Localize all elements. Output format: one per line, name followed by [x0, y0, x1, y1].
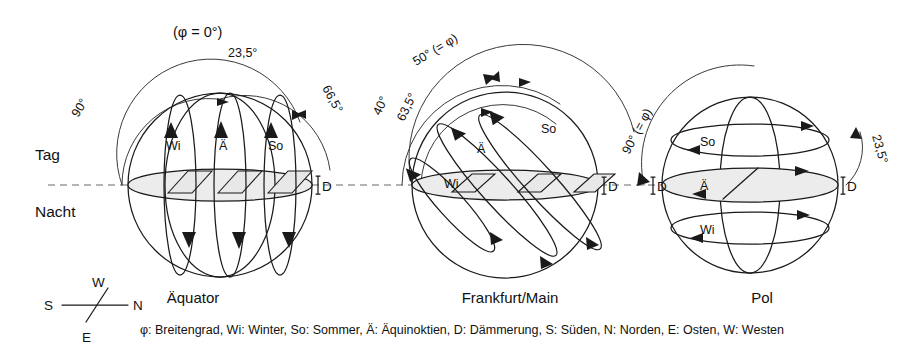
panel-frankfurt: Wi Ä So D 40° 63,5° 50° (= φ)	[370, 31, 634, 306]
path-label-wi-pole: Wi	[700, 223, 715, 237]
angle-label-40-frankfurt: 40°	[370, 94, 391, 117]
path-label-so-pole: So	[700, 135, 715, 149]
outer-arc-90-pole	[641, 65, 754, 185]
path-label-so-frankfurt: So	[541, 122, 556, 136]
path-label-wi-equator: Wi	[166, 139, 181, 153]
panel-pole: So Ä Wi D D 90° (=	[619, 65, 890, 306]
angle-label-90-equator: 90°	[69, 96, 91, 119]
sunpath-wi-pole	[671, 210, 829, 244]
path-label-ae-pole: Ä	[700, 179, 709, 193]
path-label-so-equator: So	[268, 139, 283, 153]
panel-title-pole: Pol	[751, 289, 773, 306]
panel-title-frankfurt: Frankfurt/Main	[462, 289, 559, 306]
latitude-note-equator: (φ = 0°)	[173, 24, 222, 40]
sunpath-so-pole	[671, 121, 829, 156]
dusk-label-pole-left: D	[657, 179, 667, 194]
angle-label-23-5-equator: 23,5°	[228, 46, 257, 60]
angle-label-50-frankfurt: 50° (= φ)	[410, 31, 460, 69]
angle-label-66-5-equator: 66,5°	[319, 83, 345, 115]
angle-label-23-5-pole: 23,5°	[869, 133, 891, 165]
panel-title-equator: Äquator	[167, 289, 220, 306]
figure-canvas: Tag Nacht	[0, 0, 924, 354]
compass-label-north: N	[133, 298, 143, 313]
panel-equator: Wi Ä So D 90° 23,5° 66,5°	[69, 24, 346, 306]
outer-arc-equator-left	[117, 59, 300, 185]
dusk-label-frankfurt: D	[608, 179, 618, 194]
arc-arrow-pole-left	[637, 172, 650, 186]
compass-label-west: W	[92, 275, 105, 290]
dusk-label-equator: D	[322, 179, 332, 194]
outer-arc-50-frankfurt	[409, 44, 634, 185]
path-label-ae-equator: Ä	[219, 139, 228, 153]
day-label: Tag	[35, 146, 60, 163]
sunpath-wi-frankfurt	[401, 150, 503, 260]
night-label: Nacht	[35, 203, 76, 220]
compass-label-east: E	[82, 330, 91, 345]
compass-rose: S N W E	[44, 275, 143, 345]
dusk-bracket-pole-right	[841, 177, 845, 194]
path-label-ae-frankfurt: Ä	[477, 142, 486, 156]
solar-path-diagram: Tag Nacht	[0, 0, 924, 354]
compass-label-south: S	[44, 298, 53, 313]
outer-arc-23-5-pole	[846, 132, 863, 185]
figure-caption: φ: Breitengrad, Wi: Winter, So: Sommer, …	[140, 323, 784, 337]
path-label-wi-frankfurt: Wi	[444, 177, 459, 191]
horizon-plane-pole	[662, 168, 838, 202]
angle-label-90-pole: 90° (= φ)	[619, 106, 655, 156]
dusk-label-pole-right: D	[847, 179, 857, 194]
